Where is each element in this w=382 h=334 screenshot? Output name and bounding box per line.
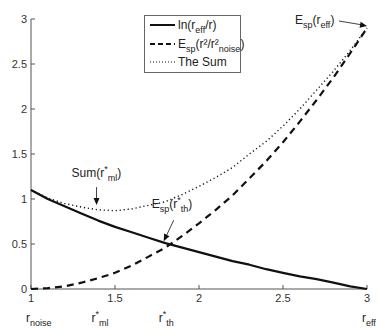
x-tick-label: 1.5 xyxy=(107,292,122,304)
annotation-sum-min: Sum(r*ml) xyxy=(72,164,122,183)
x-special-labels: rnoiser*mlr*threff xyxy=(26,309,376,328)
x-label-r-th: r*th xyxy=(159,309,174,328)
x-tick-label: 2.5 xyxy=(275,292,290,304)
y-tick-label: 2 xyxy=(21,103,27,115)
y-tick-label: 1 xyxy=(21,193,27,205)
y-tick-label: 0.5 xyxy=(12,238,27,250)
x-tick-label: 1 xyxy=(28,292,34,304)
legend: ln(reff/r)Esp(r²/r²noise)The Sum xyxy=(145,16,245,73)
annotation-arrow xyxy=(339,21,363,25)
legend-label-dotted: The Sum xyxy=(178,55,227,69)
x-tick-label: 3 xyxy=(364,292,370,304)
x-label-r-eff: reff xyxy=(362,311,376,328)
series-solid-line xyxy=(31,190,367,289)
y-tick-label: 0 xyxy=(21,283,27,295)
arrow-head-icon xyxy=(94,198,100,205)
y-tick-label: 1.5 xyxy=(12,148,27,160)
x-tick-label: 2 xyxy=(196,292,202,304)
y-tick-label: 2.5 xyxy=(12,58,27,70)
annotation-esp-th: Esp(r*th) xyxy=(152,195,193,214)
y-tick-label: 3 xyxy=(21,13,27,25)
chart: 00.511.522.5311.522.53 Sum(r*ml)Esp(r*th… xyxy=(0,0,382,334)
x-label-r-ml: r*ml xyxy=(92,309,109,328)
arrow-head-icon xyxy=(360,22,367,28)
x-label-r-noise: rnoise xyxy=(26,311,52,328)
annotation-esp-eff: Esp(reff) xyxy=(295,13,334,30)
